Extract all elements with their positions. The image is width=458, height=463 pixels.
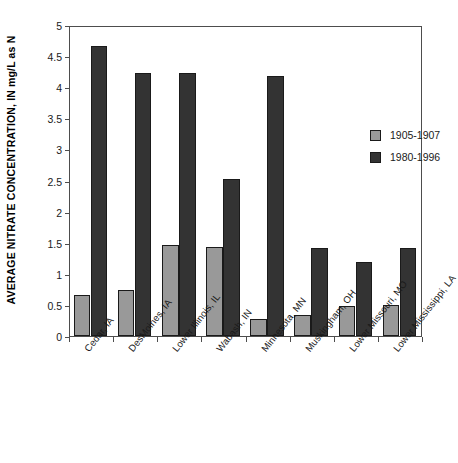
bar-new xyxy=(267,76,284,336)
x-axis-tickmark xyxy=(290,337,291,342)
x-axis-tickmark xyxy=(378,337,379,342)
legend-swatch-new xyxy=(370,152,381,163)
y-axis-ticks: 00.511.522.533.544.55 xyxy=(28,26,69,337)
legend-item: 1905-1907 xyxy=(370,124,440,146)
x-axis-tickmark xyxy=(113,337,114,342)
bar-old xyxy=(118,290,135,336)
x-axis-tickmark xyxy=(422,337,423,342)
x-axis-tickmark xyxy=(157,337,158,342)
bar-old xyxy=(294,315,311,336)
legend-item: 1980-1996 xyxy=(370,146,440,168)
x-axis-tickmark xyxy=(201,337,202,342)
legend-label: 1980-1996 xyxy=(390,151,440,163)
x-axis-tickmark xyxy=(334,337,335,342)
bar-old xyxy=(250,319,267,336)
bar-new xyxy=(223,179,240,336)
legend-label: 1905-1907 xyxy=(390,129,440,141)
bar-old xyxy=(74,295,91,336)
bar-new xyxy=(91,46,108,336)
plot-area: 1905-19071980-1996 xyxy=(69,26,422,337)
bar-old xyxy=(162,245,179,336)
chart-legend: 1905-19071980-1996 xyxy=(370,124,440,168)
y-axis-title-text: AVERAGE NITRATE CONCENTRATION, IN mg/L a… xyxy=(5,36,17,305)
legend-swatch-old xyxy=(370,130,381,141)
x-axis-labels: Cedar, IADesMoines, IALower Illinois, IL… xyxy=(0,343,443,463)
y-axis-title: AVERAGE NITRATE CONCENTRATION, IN mg/L a… xyxy=(0,0,22,340)
x-axis-tickmark xyxy=(69,337,70,342)
x-axis-tickmark xyxy=(246,337,247,342)
bar-new xyxy=(135,73,152,336)
bar-new xyxy=(179,73,196,336)
